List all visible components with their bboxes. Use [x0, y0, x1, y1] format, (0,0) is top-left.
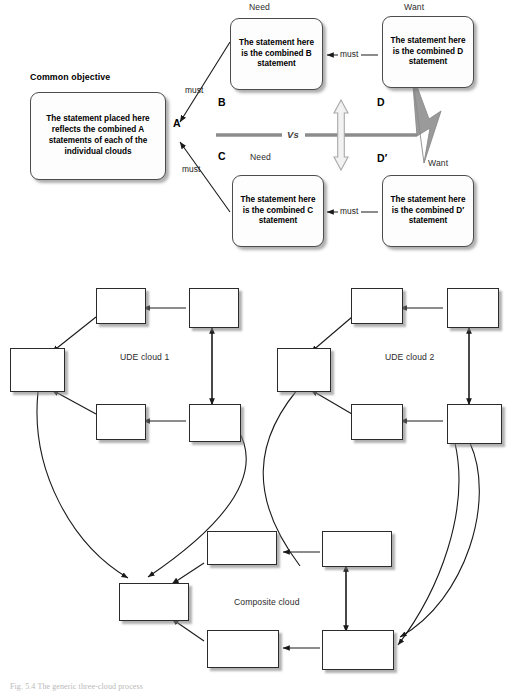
- ude1-box-need-top[interactable]: [96, 288, 146, 324]
- composite-box-want-bottom[interactable]: [322, 630, 394, 670]
- ude2-box-want-bottom[interactable]: [447, 404, 502, 444]
- cloud-box-d-prime[interactable]: The statement here is the combined D′ st…: [382, 175, 474, 247]
- ude1-box-objective[interactable]: [10, 348, 65, 392]
- label-need-bottom: Need: [250, 152, 271, 162]
- conflict-label-vs: Vs: [285, 129, 301, 140]
- figure-caption: Fig. 5.4 The generic three-cloud process: [10, 682, 143, 691]
- cloud-box-a[interactable]: The statement placed here reflects the c…: [30, 92, 166, 180]
- entity-letter-b: B: [218, 96, 226, 108]
- figure-canvas: Common objective Need Want Need Want The…: [0, 0, 516, 693]
- arrow-label-must-b-a: must: [185, 85, 204, 95]
- connector-b-to-a: [180, 42, 230, 122]
- label-ude-cloud-2: UDE cloud 2: [385, 352, 434, 362]
- label-composite-cloud: Composite cloud: [234, 597, 300, 607]
- cloud-box-d[interactable]: The statement here is the combined D sta…: [382, 16, 474, 88]
- entity-letter-d-prime: D′: [377, 152, 387, 164]
- entity-letter-c: C: [218, 150, 226, 162]
- ude2-box-objective[interactable]: [277, 348, 331, 392]
- double-headed-vertical-arrow-icon: [334, 100, 348, 170]
- label-want-bottom: Want: [428, 158, 448, 168]
- label-common-objective: Common objective: [30, 72, 110, 82]
- composite-box-objective[interactable]: [119, 583, 189, 621]
- ude2-box-need-bottom[interactable]: [351, 404, 403, 440]
- ude1-box-want-top[interactable]: [189, 288, 239, 328]
- entity-letter-a: A: [173, 117, 181, 129]
- ude1-box-need-bottom[interactable]: [96, 404, 146, 440]
- label-need-top: Need: [249, 2, 270, 12]
- label-want-top: Want: [404, 2, 424, 12]
- composite-box-need-bottom[interactable]: [207, 630, 279, 668]
- ude1-box-want-bottom[interactable]: [189, 404, 241, 442]
- composite-box-need-top[interactable]: [207, 531, 277, 565]
- arrow-label-must-d-b: must: [338, 49, 361, 59]
- cloud-box-c[interactable]: The statement here is the combined C sta…: [232, 175, 324, 247]
- entity-letter-d: D: [377, 96, 385, 108]
- ude2-box-want-top[interactable]: [447, 288, 499, 328]
- ude2-box-need-top[interactable]: [351, 288, 403, 324]
- arrow-label-must-c-a: must: [182, 164, 201, 174]
- composite-box-want-top[interactable]: [322, 531, 392, 567]
- cloud-box-b[interactable]: The statement here is the combined B sta…: [230, 18, 323, 90]
- arrow-label-must-dprime-c: must: [338, 206, 361, 216]
- label-ude-cloud-1: UDE cloud 1: [120, 352, 169, 362]
